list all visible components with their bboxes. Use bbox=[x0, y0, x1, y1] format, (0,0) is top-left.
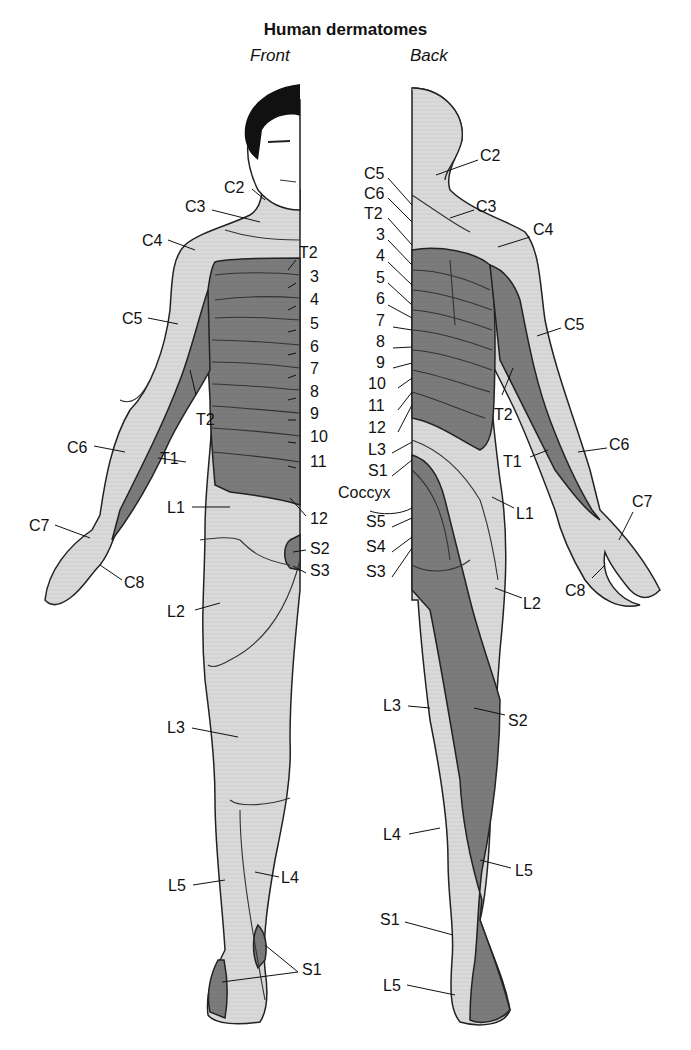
back-label-t2: T2 bbox=[494, 407, 513, 423]
front-label-c3: C3 bbox=[185, 199, 205, 215]
back-label-c3: C3 bbox=[476, 199, 496, 215]
back-spine-c5: C5 bbox=[364, 166, 384, 182]
back-label-l5-foot: L5 bbox=[383, 978, 401, 994]
front-trunk-t8: 8 bbox=[310, 384, 319, 400]
back-spine-s1: S1 bbox=[368, 463, 388, 479]
back-label-l3: L3 bbox=[383, 698, 401, 714]
back-spine-t3: 3 bbox=[376, 227, 385, 243]
back-spine-t4: 4 bbox=[376, 248, 385, 264]
front-label-l3: L3 bbox=[167, 720, 185, 736]
front-trunk-t5: 5 bbox=[310, 316, 319, 332]
back-label-s1: S1 bbox=[380, 912, 400, 928]
back-label-l4: L4 bbox=[383, 827, 401, 843]
front-trunk-t4: 4 bbox=[310, 292, 319, 308]
back-spine-s3: S3 bbox=[366, 564, 386, 580]
front-trunk-t12: 12 bbox=[310, 511, 328, 527]
front-label-c2: C2 bbox=[224, 180, 244, 196]
back-label-c8: C8 bbox=[565, 583, 585, 599]
front-label-c7: C7 bbox=[29, 518, 49, 534]
back-label-l1: L1 bbox=[516, 506, 534, 522]
front-trunk-t9: 9 bbox=[310, 406, 319, 422]
back-label-t1: T1 bbox=[503, 454, 522, 470]
back-spine-t12: 12 bbox=[368, 420, 386, 436]
back-spine-t10: 10 bbox=[368, 376, 386, 392]
back-spine-t9: 9 bbox=[376, 355, 385, 371]
back-spine-t2: T2 bbox=[364, 206, 383, 222]
front-head bbox=[245, 84, 300, 210]
back-label-s2: S2 bbox=[508, 713, 528, 729]
back-spine-t5: 5 bbox=[376, 270, 385, 286]
back-label-l5-leg: L5 bbox=[515, 863, 533, 879]
back-label-c6: C6 bbox=[609, 437, 629, 453]
back-spine-t6: 6 bbox=[376, 291, 385, 307]
back-spine-s4: S4 bbox=[366, 539, 386, 555]
front-label-t2-arm: T2 bbox=[196, 412, 215, 428]
back-label-c5: C5 bbox=[564, 317, 584, 333]
front-label-l1: L1 bbox=[167, 500, 185, 516]
front-label-c5: C5 bbox=[122, 311, 142, 327]
front-trunk-t10: 10 bbox=[310, 429, 328, 445]
back-label-l2: L2 bbox=[523, 596, 541, 612]
front-label-t1: T1 bbox=[160, 451, 179, 467]
body-illustration bbox=[0, 0, 691, 1050]
back-label-c2: C2 bbox=[480, 148, 500, 164]
front-label-s2: S2 bbox=[310, 541, 330, 557]
back-spine-t11: 11 bbox=[368, 398, 385, 414]
front-trunk-t3: 3 bbox=[310, 269, 319, 285]
back-label-c4: C4 bbox=[533, 222, 553, 238]
front-trunk-t6: 6 bbox=[310, 339, 319, 355]
back-spine-l3: L3 bbox=[368, 442, 386, 458]
back-spine-s5: S5 bbox=[366, 514, 386, 530]
back-spine-c6: C6 bbox=[364, 186, 384, 202]
front-trunk-t11: 11 bbox=[310, 454, 327, 470]
front-trunk-t2: T2 bbox=[299, 245, 318, 261]
back-spine-t8: 8 bbox=[376, 334, 385, 350]
front-label-c8: C8 bbox=[124, 575, 144, 591]
front-label-c6: C6 bbox=[67, 440, 87, 456]
back-spine-coccyx: Coccyx bbox=[338, 485, 390, 501]
front-label-l5: L5 bbox=[168, 878, 186, 894]
back-label-c7: C7 bbox=[632, 494, 652, 510]
dermatome-figure: Human dermatomes Front Back bbox=[0, 0, 691, 1050]
front-label-s3: S3 bbox=[310, 563, 330, 579]
front-label-s1: S1 bbox=[302, 962, 322, 978]
front-trunk-t7: 7 bbox=[310, 361, 319, 377]
front-label-l2: L2 bbox=[167, 604, 185, 620]
back-spine-t7: 7 bbox=[376, 313, 385, 329]
front-label-l4: L4 bbox=[281, 870, 299, 886]
front-label-c4: C4 bbox=[142, 233, 162, 249]
